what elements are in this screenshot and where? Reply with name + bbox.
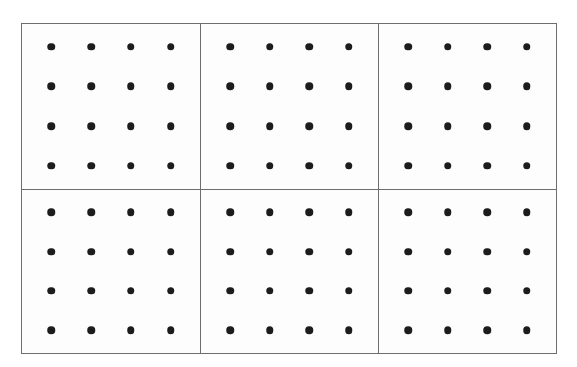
data-point-dot [345, 83, 353, 91]
data-point-dot [226, 208, 234, 216]
data-point-dot [48, 43, 56, 51]
data-point-dot [523, 122, 531, 130]
data-point-dot [266, 122, 274, 130]
data-point-dot [167, 248, 175, 256]
data-point-dot [523, 83, 531, 91]
data-point-dot [167, 83, 175, 91]
dot-grid-table [21, 23, 557, 354]
panel-bottom-center [200, 189, 378, 354]
data-point-dot [87, 248, 95, 256]
data-point-dot [87, 162, 95, 170]
data-point-dot [523, 287, 531, 295]
data-point-dot [48, 122, 56, 130]
data-point-dot [87, 43, 95, 51]
data-point-dot [226, 162, 234, 170]
data-point-dot [523, 43, 531, 51]
panel-bottom-right [378, 189, 556, 354]
data-point-dot [48, 83, 56, 91]
data-point-dot [226, 122, 234, 130]
data-point-dot [484, 208, 492, 216]
data-point-dot [48, 162, 56, 170]
data-point-dot [404, 248, 412, 256]
data-point-dot [345, 327, 353, 335]
data-point-dot [306, 287, 314, 295]
data-point-dot [444, 287, 452, 295]
data-point-dot [127, 83, 135, 91]
data-point-dot [306, 83, 314, 91]
data-point-dot [127, 327, 135, 335]
data-point-dot [306, 162, 314, 170]
data-point-dot [484, 43, 492, 51]
panel-bottom-left [22, 189, 200, 354]
data-point-dot [266, 83, 274, 91]
panel-top-right [378, 24, 556, 189]
data-point-dot [306, 208, 314, 216]
data-point-dot [444, 248, 452, 256]
data-point-dot [484, 122, 492, 130]
data-point-dot [444, 122, 452, 130]
data-point-dot [226, 248, 234, 256]
data-point-dot [306, 122, 314, 130]
data-point-dot [345, 248, 353, 256]
data-point-dot [167, 43, 175, 51]
data-point-dot [167, 162, 175, 170]
data-point-dot [444, 208, 452, 216]
data-point-dot [87, 122, 95, 130]
data-point-dot [345, 122, 353, 130]
data-point-dot [523, 208, 531, 216]
data-point-dot [87, 287, 95, 295]
data-point-dot [266, 287, 274, 295]
data-point-dot [48, 248, 56, 256]
data-point-dot [404, 208, 412, 216]
data-point-dot [484, 327, 492, 335]
data-point-dot [523, 327, 531, 335]
data-point-dot [127, 208, 135, 216]
figure-canvas [0, 0, 577, 367]
data-point-dot [404, 43, 412, 51]
data-point-dot [404, 83, 412, 91]
data-point-dot [87, 327, 95, 335]
data-point-dot [226, 287, 234, 295]
data-point-dot [48, 327, 56, 335]
data-point-dot [48, 287, 56, 295]
data-point-dot [167, 327, 175, 335]
data-point-dot [484, 162, 492, 170]
data-point-dot [266, 208, 274, 216]
data-point-dot [484, 83, 492, 91]
data-point-dot [404, 287, 412, 295]
data-point-dot [345, 43, 353, 51]
data-point-dot [48, 208, 56, 216]
data-point-dot [484, 248, 492, 256]
data-point-dot [306, 327, 314, 335]
data-point-dot [523, 248, 531, 256]
data-point-dot [484, 287, 492, 295]
data-point-dot [444, 327, 452, 335]
data-point-dot [266, 162, 274, 170]
data-point-dot [266, 327, 274, 335]
data-point-dot [167, 122, 175, 130]
data-point-dot [404, 327, 412, 335]
data-point-dot [226, 327, 234, 335]
data-point-dot [127, 122, 135, 130]
data-point-dot [444, 162, 452, 170]
data-point-dot [306, 248, 314, 256]
data-point-dot [345, 208, 353, 216]
data-point-dot [127, 248, 135, 256]
data-point-dot [127, 43, 135, 51]
data-point-dot [523, 162, 531, 170]
panel-top-left [22, 24, 200, 189]
data-point-dot [345, 287, 353, 295]
data-point-dot [345, 162, 353, 170]
data-point-dot [87, 208, 95, 216]
data-point-dot [404, 162, 412, 170]
data-point-dot [87, 83, 95, 91]
data-point-dot [127, 287, 135, 295]
data-point-dot [127, 162, 135, 170]
panel-top-center [200, 24, 378, 189]
data-point-dot [226, 83, 234, 91]
data-point-dot [167, 208, 175, 216]
data-point-dot [306, 43, 314, 51]
data-point-dot [167, 287, 175, 295]
data-point-dot [444, 43, 452, 51]
data-point-dot [266, 43, 274, 51]
